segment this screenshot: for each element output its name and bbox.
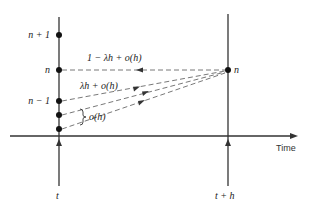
time-t-arrow <box>56 139 62 146</box>
time-axis-label: Time <box>276 143 296 153</box>
time-t-label: t <box>56 190 59 201</box>
state-label-n-minus-1: n − 1 <box>28 95 50 106</box>
state-label-n: n <box>45 64 50 75</box>
time-t-plus-h-arrow <box>225 139 231 146</box>
state-dot-right-n <box>225 67 231 73</box>
state-dot-n-minus-3 <box>56 126 62 132</box>
state-dot-n-minus-1 <box>56 98 62 104</box>
brace-label: o(h) <box>89 111 106 123</box>
state-dot-n-plus-1 <box>56 32 62 38</box>
transition-arrowhead-n-to-n <box>136 68 143 73</box>
transition-label-jump-one: λh + o(h) <box>79 80 118 92</box>
transition-arrowhead-n-minus-3 <box>138 100 145 106</box>
time-axis-arrowhead <box>290 133 298 139</box>
time-t-plus-h-label: t + h <box>215 190 235 201</box>
transition-label-stay: 1 − λh + o(h) <box>87 52 142 64</box>
transition-arrowhead-n-minus-2 <box>142 91 149 96</box>
transition-arrowhead-n-minus-1 <box>133 87 140 92</box>
state-dot-n-minus-2 <box>56 112 62 118</box>
state-label-n-plus-1: n + 1 <box>28 29 50 40</box>
state-label-right-n: n <box>234 64 239 75</box>
state-dot-n <box>56 67 62 73</box>
birth-process-diagram: Time t t + h n + 1 n n − 1 n 1 − λh + o(… <box>0 0 314 213</box>
